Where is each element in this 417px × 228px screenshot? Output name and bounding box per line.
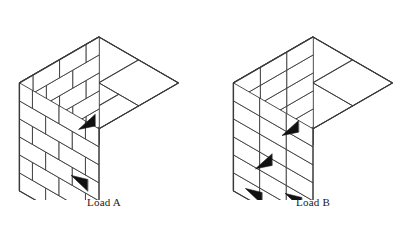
load-b-panel: Load B	[209, 0, 417, 228]
figure-canvas: Load A Load B	[0, 0, 417, 228]
load-b-isometric-drawing	[209, 0, 417, 200]
load-b-caption: Load B	[209, 196, 417, 208]
load-a-isometric-drawing	[0, 0, 208, 200]
load-a-caption: Load A	[0, 196, 208, 208]
load-a-panel: Load A	[0, 0, 208, 228]
